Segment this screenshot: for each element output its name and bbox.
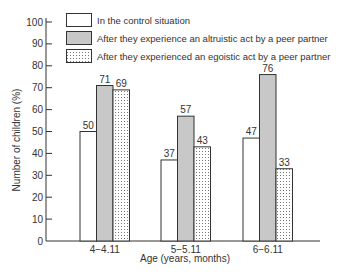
x-tick-label: 4−4.11	[90, 244, 121, 255]
y-tick-label: 20	[32, 192, 44, 203]
legend: In the control situationAfter they exper…	[67, 14, 331, 63]
bar	[276, 169, 293, 241]
bar-value-label: 76	[262, 63, 274, 74]
bar	[80, 132, 97, 242]
y-tick-label: 80	[32, 60, 44, 71]
bar-value-label: 57	[180, 104, 192, 115]
bar	[243, 138, 260, 241]
legend-swatch	[67, 50, 92, 63]
bar-value-label: 71	[99, 74, 111, 85]
legend-swatch	[67, 14, 92, 27]
y-axis: 0102030405060708090100	[26, 17, 52, 247]
y-axis-label: Number of children (%)	[11, 89, 22, 192]
bar	[260, 75, 277, 241]
legend-label: After they experienced an egoistic act b…	[97, 51, 330, 62]
bar-value-label: 50	[83, 120, 95, 131]
x-axis-label: Age (years, months)	[140, 253, 230, 264]
bar-value-label: 69	[116, 78, 128, 89]
y-tick-label: 40	[32, 148, 44, 159]
legend-label: After they experience an altruistic act …	[97, 33, 328, 44]
y-tick-label: 50	[32, 126, 44, 137]
x-tick-label: 6−6.11	[253, 244, 284, 255]
legend-label: In the control situation	[97, 15, 190, 26]
bar	[113, 90, 130, 241]
bar-value-label: 33	[279, 157, 291, 168]
y-tick-label: 30	[32, 170, 44, 181]
legend-swatch	[67, 32, 92, 45]
bar-value-label: 43	[197, 135, 209, 146]
bar-value-label: 47	[246, 126, 258, 137]
chart-canvas: 0102030405060708090100 4−4.115−5.116−6.1…	[0, 0, 340, 276]
y-tick-label: 60	[32, 104, 44, 115]
bar-value-label: 37	[164, 148, 176, 159]
bars: 507169375743477633	[80, 63, 293, 241]
y-tick-label: 10	[32, 214, 44, 225]
bar	[178, 116, 195, 241]
bar	[194, 147, 211, 241]
y-tick-label: 0	[37, 236, 43, 247]
y-tick-label: 90	[32, 38, 44, 49]
bar	[97, 86, 114, 241]
bar	[161, 160, 178, 241]
y-tick-label: 100	[26, 17, 43, 28]
y-tick-label: 70	[32, 82, 44, 93]
bar-chart: 0102030405060708090100 4−4.115−5.116−6.1…	[0, 0, 340, 276]
